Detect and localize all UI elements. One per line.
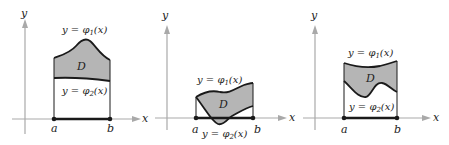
- x-axis-arrow-icon: [278, 115, 287, 121]
- y-axis-label: y: [161, 9, 169, 22]
- x-axis-label: x: [289, 111, 296, 124]
- b-label: b: [394, 123, 401, 136]
- y-axis-label: y: [20, 7, 28, 20]
- x-axis-label: x: [433, 111, 440, 124]
- region-d-label: D: [365, 72, 375, 85]
- panel-2: y x a b D y = φ1(x) y = φ2(x): [155, 9, 296, 141]
- b-label: b: [254, 123, 261, 136]
- point-b: [251, 116, 256, 121]
- point-b: [108, 117, 113, 122]
- x-axis-label: x: [142, 112, 149, 125]
- x-axis-arrow-icon: [132, 116, 141, 122]
- region-d-label: D: [76, 60, 86, 73]
- region-d-label: D: [218, 98, 228, 111]
- y-axis-label: y: [310, 9, 318, 22]
- a-label: a: [192, 123, 199, 136]
- lower-curve-label: y = φ2(x): [201, 128, 247, 141]
- a-label: a: [341, 123, 348, 136]
- point-b: [395, 116, 400, 121]
- b-label: b: [107, 122, 114, 135]
- a-label: a: [51, 122, 58, 135]
- x-axis-arrow-icon: [422, 115, 431, 121]
- y-axis-arrow-icon: [312, 25, 318, 34]
- panel-3: y x a b D y = φ1(x) y = φ2(x): [303, 9, 440, 136]
- y-axis-arrow-icon: [22, 19, 28, 28]
- lower-curve-label: y = φ2(x): [348, 101, 394, 114]
- lower-curve-label: y = φ2(x): [61, 85, 107, 98]
- panel-1: y x a b D y = φ1(x) y = φ2(x): [12, 7, 149, 135]
- point-a: [52, 117, 57, 122]
- upper-curve-label: y = φ1(x): [196, 74, 242, 87]
- upper-curve-label: y = φ1(x): [347, 47, 393, 60]
- upper-curve-label: y = φ1(x): [61, 24, 107, 37]
- y-axis-arrow-icon: [164, 25, 170, 34]
- type-1-region-diagrams: y x a b D y = φ1(x) y = φ2(x) y x a b D …: [0, 0, 449, 145]
- point-a: [342, 116, 347, 121]
- point-a: [194, 116, 199, 121]
